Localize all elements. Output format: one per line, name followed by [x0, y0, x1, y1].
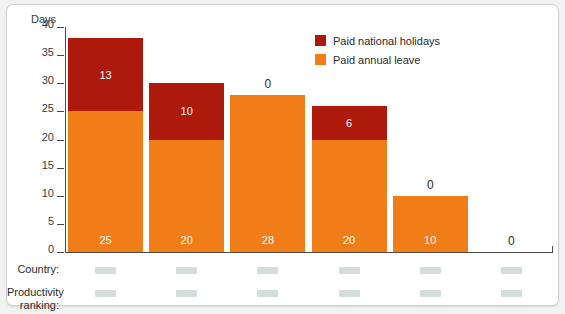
- chart-panel: Days 4035302520151050 251320102802061000…: [6, 4, 559, 306]
- bar-value-label-national-holidays: 6: [312, 117, 387, 129]
- plot-area: 251320102802061000: [65, 27, 552, 252]
- chart-screenshot: Days 4035302520151050 251320102802061000…: [0, 0, 565, 314]
- y-axis-tick-label: 40: [42, 19, 54, 30]
- redacted-ranking-value: [176, 290, 197, 297]
- legend-item-annual-leave: Paid annual leave: [315, 52, 440, 67]
- y-axis-tick-mark: [57, 168, 64, 169]
- legend: Paid national holidays Paid annual leave: [315, 33, 440, 71]
- x-axis-right-cap: [552, 246, 553, 253]
- y-axis-tick-label: 20: [42, 132, 54, 143]
- x-axis-line: [65, 252, 553, 253]
- redacted-country-value: [501, 267, 522, 274]
- redacted-ranking-value: [95, 290, 116, 297]
- bar-zero-value-label: 0: [393, 179, 468, 192]
- bar-value-label-annual-leave: 10: [393, 234, 468, 246]
- y-axis-tick-mark: [57, 224, 64, 225]
- y-axis-tick-mark: [57, 140, 64, 141]
- bar-value-label-annual-leave: 20: [149, 234, 224, 246]
- y-axis-tick-label: 30: [42, 75, 54, 86]
- bar-group[interactable]: 2010: [149, 27, 224, 252]
- bar-value-label-annual-leave: 25: [68, 234, 143, 246]
- redacted-country-value: [420, 267, 441, 274]
- bar-group[interactable]: 0: [474, 27, 549, 252]
- footer-label-productivity-ranking: Productivity ranking:: [7, 286, 59, 312]
- y-axis-tick-mark: [57, 55, 64, 56]
- bar-value-label-annual-leave: 20: [312, 234, 387, 246]
- bar-value-label-annual-leave: 28: [230, 234, 305, 246]
- bar-segment-annual-leave[interactable]: 28: [230, 95, 305, 253]
- redacted-ranking-value: [420, 290, 441, 297]
- redacted-country-value: [339, 267, 360, 274]
- y-axis-tick-label: 35: [42, 47, 54, 58]
- bar-value-label-national-holidays: 13: [68, 69, 143, 81]
- legend-label-national-holidays: Paid national holidays: [333, 35, 440, 47]
- bar-group[interactable]: 280: [230, 27, 305, 252]
- y-axis-tick-label: 25: [42, 103, 54, 114]
- legend-label-annual-leave: Paid annual leave: [333, 54, 420, 66]
- redacted-ranking-value: [257, 290, 278, 297]
- redacted-country-value: [176, 267, 197, 274]
- bar-segment-national-holidays[interactable]: 13: [68, 38, 143, 111]
- redacted-country-value: [257, 267, 278, 274]
- y-axis-tick-mark: [57, 252, 64, 253]
- bar-value-label-national-holidays: 10: [149, 105, 224, 117]
- redacted-country-value: [95, 267, 116, 274]
- bar-segment-national-holidays[interactable]: 10: [149, 83, 224, 139]
- y-axis-tick-label: 5: [48, 216, 54, 227]
- legend-swatch-annual-leave: [315, 54, 326, 65]
- bar-zero-value-label: 0: [474, 235, 549, 248]
- bar-segment-annual-leave[interactable]: 20: [312, 140, 387, 253]
- bar-segment-annual-leave[interactable]: 10: [393, 196, 468, 252]
- bar-segment-national-holidays[interactable]: 6: [312, 106, 387, 140]
- footer-label-country: Country:: [7, 263, 59, 276]
- redacted-ranking-value: [339, 290, 360, 297]
- bar-segment-annual-leave[interactable]: 25: [68, 111, 143, 252]
- bar-zero-value-label: 0: [230, 78, 305, 91]
- bar-segment-annual-leave[interactable]: 20: [149, 140, 224, 253]
- redacted-ranking-value: [501, 290, 522, 297]
- legend-item-national-holidays: Paid national holidays: [315, 33, 440, 48]
- y-axis-tick-label: 10: [42, 188, 54, 199]
- y-axis-tick-mark: [57, 27, 64, 28]
- y-axis-tick-mark: [57, 196, 64, 197]
- legend-swatch-national-holidays: [315, 35, 326, 46]
- y-axis-tick-label: 15: [42, 160, 54, 171]
- y-axis-tick-mark: [57, 111, 64, 112]
- y-axis-tick-mark: [57, 83, 64, 84]
- bar-group[interactable]: 2513: [68, 27, 143, 252]
- y-axis-tick-label: 0: [48, 244, 54, 255]
